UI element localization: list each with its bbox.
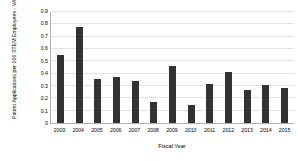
x-axis-tick-label: 2006 [106,126,125,136]
bar-slot [275,12,294,123]
y-axis-tick-label: 0.3 [34,84,48,89]
x-axis-tick-label: 2007 [125,126,144,136]
y-axis-tick-label: 0.6 [34,47,48,52]
bar [244,90,251,123]
bar-slot [70,12,89,123]
bar-slot [107,12,126,123]
bar-slot [201,12,220,123]
x-axis-tick-label: 2005 [88,126,107,136]
x-axis-tick-label: 2010 [181,126,200,136]
y-axis-tick-label: 0 [34,121,48,126]
bar [206,84,213,123]
bar-series [51,12,294,123]
x-axis-tick-label: 2014 [256,126,275,136]
x-axis-tick-label: 2003 [50,126,69,136]
bar [94,79,101,123]
bar [113,77,120,123]
bar [188,105,195,123]
y-axis-tick-labels: 0.90.80.70.60.50.40.30.20.10 [34,12,48,124]
bar-slot [182,12,201,123]
bar [262,85,269,123]
bar [132,81,139,123]
x-axis-tick-label: 2008 [144,126,163,136]
bar-slot [238,12,257,123]
x-axis-tick-label: 2011 [200,126,219,136]
bar-slot [88,12,107,123]
bar-slot [219,12,238,123]
x-axis-tick-label: 2004 [69,126,88,136]
bar-slot [257,12,276,123]
y-axis-tick-label: 0.9 [34,9,48,14]
bar-slot [126,12,145,123]
x-axis-tick-label: 2015 [275,126,294,136]
bar-slot [51,12,70,123]
x-axis-title: Fiscal Year [50,142,294,150]
bar [57,55,64,123]
bar-chart: Patent Applications per 100 STEM Employe… [0,0,298,161]
bar [76,27,83,123]
bar-slot [144,12,163,123]
bar [281,88,288,123]
y-axis-tick-label: 0.8 [34,22,48,27]
bar [225,72,232,123]
y-axis-tick-label: 0.1 [34,109,48,114]
y-axis-tick-label: 0.2 [34,97,48,102]
x-axis-tick-label: 2009 [163,126,182,136]
y-axis-title: Patent Applications per 100 STEM Employe… [11,0,18,119]
bar [169,66,176,123]
plot-area [50,12,294,124]
x-axis-tick-labels: 2003200420052006200720082009201020112012… [50,126,294,136]
y-axis-tick-label: 0.4 [34,72,48,77]
y-axis-tick-label: 0.7 [34,34,48,39]
y-axis-tick-label: 0.5 [34,59,48,64]
bar-slot [163,12,182,123]
bar [150,102,157,123]
x-axis-tick-label: 2013 [238,126,257,136]
x-axis-tick-label: 2012 [219,126,238,136]
